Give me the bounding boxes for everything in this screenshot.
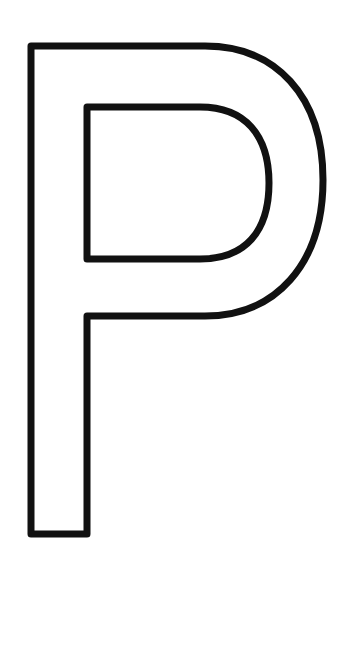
letter-canvas: P	[0, 0, 347, 649]
letter-p-inner-counter	[87, 107, 269, 259]
outlined-letter-p-icon	[0, 0, 347, 649]
